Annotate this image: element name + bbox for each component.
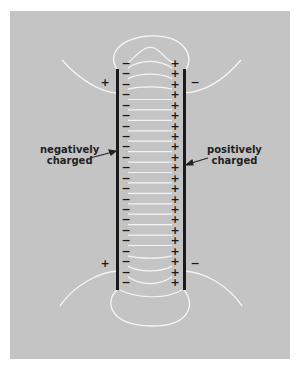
label-arrows (0, 0, 296, 366)
